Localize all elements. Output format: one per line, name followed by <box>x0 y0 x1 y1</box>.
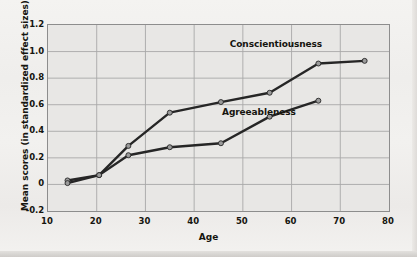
data-point-marker <box>126 143 131 148</box>
x-tick-label: 30 <box>124 216 164 226</box>
data-point-marker <box>65 181 70 186</box>
x-axis-title: Age <box>0 232 417 242</box>
data-point-marker <box>362 58 367 63</box>
data-series <box>65 58 367 183</box>
chart-figure: -0.200.20.40.60.81.01.2 1020304050607080… <box>0 0 417 257</box>
y-axis-title: Mean scores (in standardized effect size… <box>20 11 30 211</box>
x-tick-label: 70 <box>319 216 359 226</box>
series-layer <box>65 58 367 185</box>
x-tick-label: 80 <box>368 216 408 226</box>
data-point-marker <box>218 141 223 146</box>
x-tick-label: 60 <box>271 216 311 226</box>
gridlines <box>48 25 389 211</box>
data-point-marker <box>126 153 131 158</box>
x-axis-ticks: 1020304050607080 <box>0 216 417 230</box>
x-tick-label: 20 <box>76 216 116 226</box>
plot-area <box>47 24 390 212</box>
data-point-marker <box>97 173 102 178</box>
data-point-marker <box>167 110 172 115</box>
data-point-marker <box>316 61 321 66</box>
data-point-marker <box>267 90 272 95</box>
page-edge-right <box>412 0 417 257</box>
series-line <box>67 61 364 181</box>
data-point-marker <box>218 100 223 105</box>
series-label-0: Conscientiousness <box>230 39 322 49</box>
x-tick-label: 10 <box>27 216 67 226</box>
data-point-marker <box>316 98 321 103</box>
data-point-marker <box>167 145 172 150</box>
x-tick-label: 50 <box>222 216 262 226</box>
page-edge-bottom <box>0 251 417 257</box>
chart-canvas <box>48 25 389 211</box>
series-label-1: Agreeableness <box>222 107 296 117</box>
x-tick-label: 40 <box>173 216 213 226</box>
